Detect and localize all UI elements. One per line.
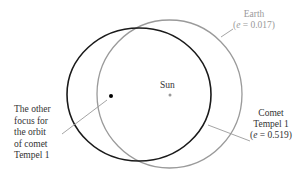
focus-label-line: Tempel 1 [14,150,51,162]
earth-leader-line [221,29,233,37]
focus-label-line: the orbit [14,127,51,139]
sun-label: Sun [160,80,175,91]
focus-label-line: focus for [14,116,51,128]
focus-label-line: of comet [14,139,51,151]
focus-label-line: The other [14,104,51,116]
earth-eccentricity: (e = 0.017) [233,20,275,31]
earth-name: Earth [233,9,275,20]
sun-dot [169,94,172,97]
comet-name-line2: Tempel 1 [250,119,292,130]
other-focus-dot [109,94,113,98]
focus-label: The other focus for the orbit of comet T… [14,104,51,162]
comet-label: Comet Tempel 1 (e = 0.519) [250,108,292,141]
comet-orbit [67,28,211,161]
comet-name-line1: Comet [250,108,292,119]
comet-eccentricity: (e = 0.519) [250,130,292,141]
earth-label: Earth (e = 0.017) [233,9,275,31]
comet-leader-line [208,125,250,141]
